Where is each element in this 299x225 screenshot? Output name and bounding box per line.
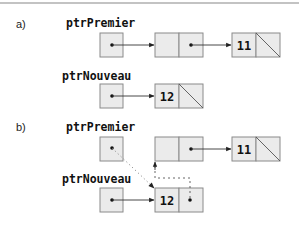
ptrNouveau-label-b: ptrNouveau — [62, 172, 131, 186]
pointer-dot — [188, 198, 192, 202]
node-11-b: 11 — [232, 137, 280, 161]
node-11-a: 11 — [232, 33, 280, 57]
node-12-b: 12 — [155, 188, 203, 212]
section-a: a) ptrPremier 11 ptrNouveau — [16, 16, 280, 108]
node-value: 12 — [160, 194, 174, 208]
section-b: b) ptrPremier 11 ptrNouveau — [16, 120, 280, 212]
node-data-cell — [155, 137, 179, 161]
node-value: 12 — [160, 90, 174, 104]
section-a-label: a) — [16, 18, 26, 30]
node-12-a: 12 — [155, 84, 203, 108]
section-b-label: b) — [16, 121, 26, 133]
node-value: 11 — [237, 143, 251, 157]
node-value: 11 — [237, 39, 251, 53]
ptrPremier-label-a: ptrPremier — [66, 16, 135, 30]
ptrNouveau-label-a: ptrNouveau — [62, 69, 131, 83]
node-data-cell — [155, 33, 179, 57]
ptrPremier-label-b: ptrPremier — [66, 120, 135, 134]
linked-list-diagram: a) ptrPremier 11 ptrNouveau — [0, 0, 299, 225]
